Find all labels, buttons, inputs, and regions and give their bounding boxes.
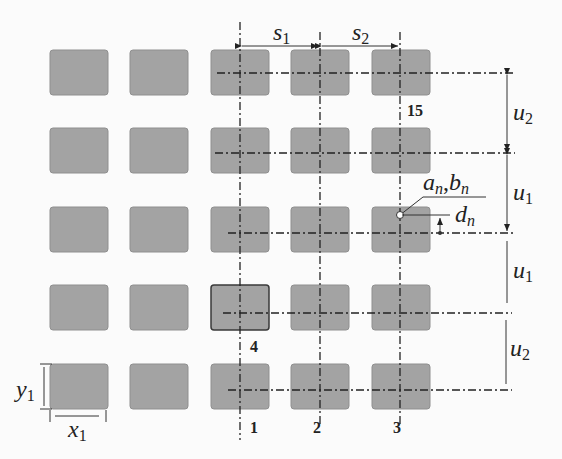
patch-element xyxy=(130,285,188,330)
patch-element xyxy=(130,128,188,173)
patch-element xyxy=(211,207,269,252)
patch-element xyxy=(130,50,188,95)
element-number-1: 1 xyxy=(250,419,258,436)
u2-top-label: u2 xyxy=(513,99,533,127)
patch-element xyxy=(50,128,108,173)
element-number-2: 2 xyxy=(313,419,321,436)
dn-base-dot xyxy=(438,231,442,235)
patch-element xyxy=(50,50,108,95)
patch-element xyxy=(372,285,430,330)
element-number-3: 3 xyxy=(393,419,401,436)
patch-element xyxy=(50,364,108,409)
patch-element xyxy=(130,207,188,252)
array-layout-diagram: s1 s2 u2 u1 u1 u2 an,bn dn y1 x1 1 2 3 4… xyxy=(0,0,562,459)
element-number-15: 15 xyxy=(407,102,423,119)
patch-element xyxy=(50,285,108,330)
y1-label: y1 xyxy=(14,376,35,404)
x1-label: x1 xyxy=(67,416,87,444)
an-bn-label: an,bn xyxy=(423,169,469,197)
s2-label: s2 xyxy=(352,19,369,47)
element-number-4: 4 xyxy=(250,338,258,355)
patch-element xyxy=(372,364,430,409)
patch-element xyxy=(130,364,188,409)
s1-label: s1 xyxy=(273,19,290,47)
patch-element xyxy=(50,207,108,252)
u1-upper-label: u1 xyxy=(513,179,533,207)
dn-label: dn xyxy=(455,201,475,229)
patch-element xyxy=(372,128,430,173)
u1-lower-label: u1 xyxy=(513,257,533,285)
patch-element xyxy=(211,285,269,330)
u2-bottom-label: u2 xyxy=(510,335,530,363)
